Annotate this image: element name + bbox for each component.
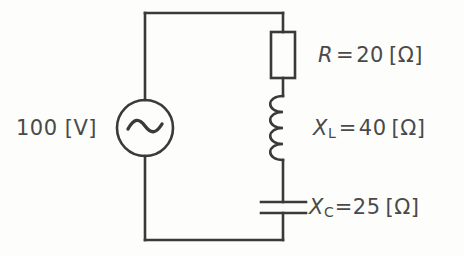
source-voltage-text: 100 [V]	[16, 116, 97, 140]
source-voltage-label: 100 [V]	[16, 118, 97, 139]
inductor-coil	[270, 96, 283, 160]
inductor-unit-text: [Ω]	[392, 116, 426, 140]
inductor-value-label: XL=40[Ω]	[313, 118, 425, 139]
inductor-subscript-text: L	[328, 125, 336, 141]
capacitor-value-text: 25	[353, 195, 381, 219]
resistor-body	[271, 32, 295, 78]
capacitor-equals-sign: =	[335, 195, 353, 219]
resistor-value-label: R=20[Ω]	[318, 45, 423, 66]
resistor-equals-sign: =	[336, 43, 354, 67]
inductor-symbol-text: X	[313, 116, 328, 140]
capacitor-value-label: XC=25[Ω]	[309, 197, 419, 218]
inductor-equals-sign: =	[339, 116, 357, 140]
resistor-symbol-text: R	[318, 43, 333, 67]
sine-wave-icon	[128, 120, 162, 131]
inductor-value-text: 40	[359, 116, 387, 140]
capacitor-symbol-text: X	[309, 195, 324, 219]
capacitor-subscript-text: C	[324, 204, 334, 220]
resistor-value-text: 20	[356, 43, 384, 67]
capacitor-unit-text: [Ω]	[386, 195, 420, 219]
circuit-diagram-canvas: 100 [V] R=20[Ω] XL=40[Ω] XC=25[Ω]	[0, 0, 464, 256]
resistor-unit-text: [Ω]	[389, 43, 423, 67]
